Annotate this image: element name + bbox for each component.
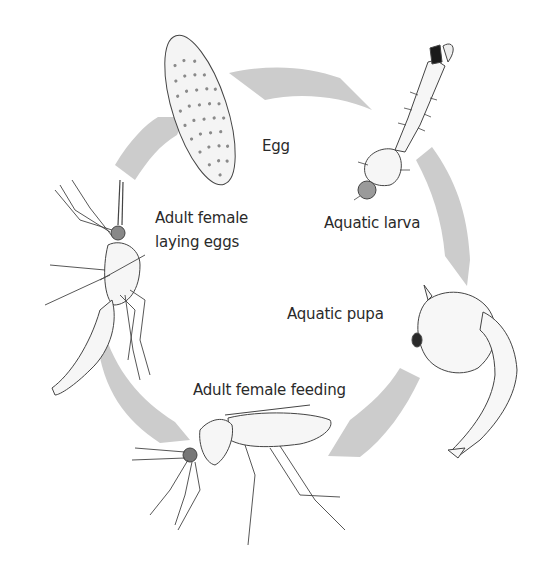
arrow-larva-to-pupa — [416, 147, 470, 286]
arrow-egg-to-larva — [229, 67, 372, 110]
label-aquatic-larva: Aquatic larva — [324, 211, 420, 235]
arrow-feeding-to-laying — [97, 328, 190, 443]
label-adult-female-feeding: Adult female feeding — [193, 378, 346, 402]
egg-illustration — [150, 27, 250, 192]
label-adult-female-laying-line1: Adult female — [155, 206, 248, 230]
mosquito-life-cycle-diagram: Egg Aquatic larva Aquatic pupa Adult fem… — [0, 0, 545, 563]
diagram-artwork — [0, 0, 545, 563]
pupa-illustration — [412, 285, 517, 458]
arrow-laying-to-egg — [115, 117, 185, 180]
label-aquatic-pupa: Aquatic pupa — [287, 302, 384, 326]
label-adult-female-laying-line2: laying eggs — [155, 230, 239, 254]
adult-laying-illustration — [45, 180, 150, 395]
label-egg: Egg — [262, 134, 290, 158]
